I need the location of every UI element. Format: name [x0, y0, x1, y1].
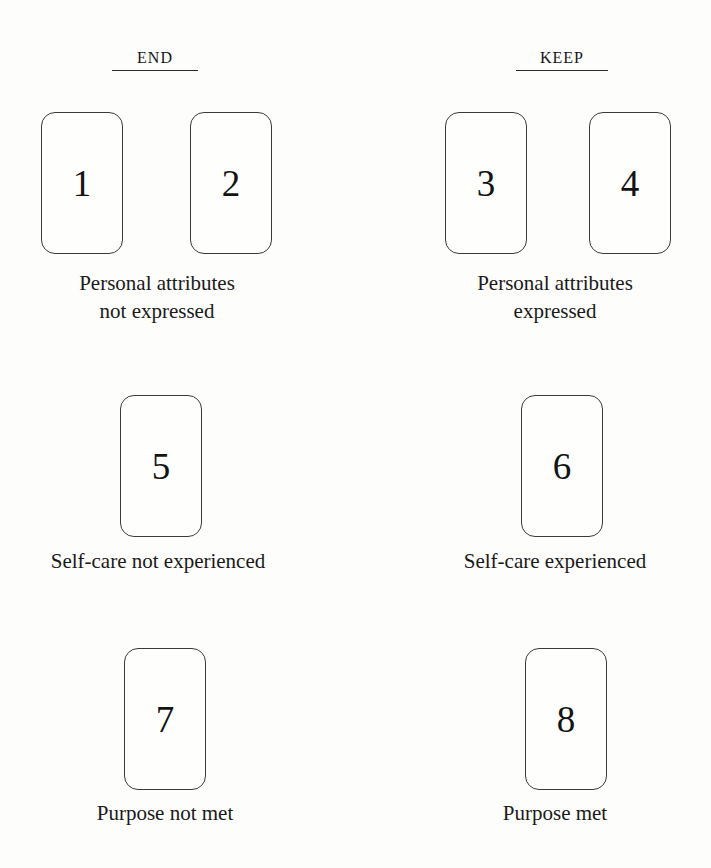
column-header-end: End [112, 44, 198, 71]
column-header-keep: Keep [516, 44, 608, 71]
caption-line-1: Self-care experienced [404, 548, 706, 576]
caption-line-1: Purpose not met [4, 800, 326, 828]
card-6-number: 6 [553, 448, 572, 485]
concept-diagram: End Keep 1 2 3 4 Personal attributes not… [0, 0, 711, 868]
card-5: 5 [120, 395, 202, 537]
card-6: 6 [521, 395, 603, 537]
caption-line-1: Self-care not experienced [0, 548, 316, 576]
card-1-number: 1 [73, 165, 92, 202]
card-3: 3 [445, 112, 527, 254]
caption-line-1: Purpose met [404, 800, 706, 828]
card-4-number: 4 [621, 165, 640, 202]
card-3-number: 3 [477, 165, 496, 202]
card-8-number: 8 [557, 701, 576, 738]
card-7-number: 7 [156, 701, 175, 738]
card-2-number: 2 [222, 165, 241, 202]
caption-purpose-not-met: Purpose not met [4, 800, 326, 828]
card-1: 1 [41, 112, 123, 254]
caption-purpose-met: Purpose met [404, 800, 706, 828]
caption-self-care-experienced: Self-care experienced [404, 548, 706, 576]
caption-line-2: expressed [404, 298, 706, 326]
card-8: 8 [525, 648, 607, 790]
card-4: 4 [589, 112, 671, 254]
caption-line-2: not expressed [6, 298, 308, 326]
caption-line-1: Personal attributes [404, 270, 706, 298]
caption-personal-attributes-not-expressed: Personal attributes not expressed [6, 270, 308, 325]
card-2: 2 [190, 112, 272, 254]
caption-self-care-not-experienced: Self-care not experienced [0, 548, 316, 576]
card-7: 7 [124, 648, 206, 790]
caption-line-1: Personal attributes [6, 270, 308, 298]
caption-personal-attributes-expressed: Personal attributes expressed [404, 270, 706, 325]
card-5-number: 5 [152, 448, 171, 485]
